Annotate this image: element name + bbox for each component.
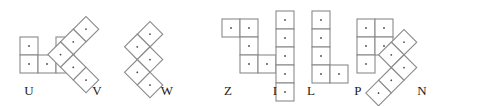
cell-center-dot xyxy=(284,73,286,75)
cell-center-dot xyxy=(284,55,286,57)
cell-center-dot xyxy=(365,27,367,29)
cell-center-dot xyxy=(320,37,322,39)
pentomino-label-l: L xyxy=(296,84,326,98)
pentomino-label-i: I xyxy=(260,84,290,98)
cell-center-dot xyxy=(248,27,250,29)
cell-center-dot xyxy=(284,19,286,21)
pentomino-cells xyxy=(311,10,349,84)
cell-center-dot xyxy=(248,63,250,65)
cell-center-dot xyxy=(248,45,250,47)
pentomino-z-pentomino xyxy=(221,18,275,72)
pentomino-cells xyxy=(221,18,277,74)
pentomino-label-w: W xyxy=(152,84,182,98)
cell-center-dot xyxy=(28,45,30,47)
cell-center-dot xyxy=(365,45,367,47)
pentomino-l-pentomino xyxy=(311,10,347,82)
pentomino-label-n: N xyxy=(407,84,437,98)
pentomino-label-v: V xyxy=(82,84,112,98)
pentomino-figure: UVWZILPN xyxy=(0,0,478,106)
cell-center-dot xyxy=(28,63,30,65)
pentomino-label-z: Z xyxy=(213,84,243,98)
cell-center-dot xyxy=(284,37,286,39)
cell-center-dot xyxy=(230,27,232,29)
cell-center-dot xyxy=(46,63,48,65)
cell-center-dot xyxy=(338,73,340,75)
cell-center-dot xyxy=(320,19,322,21)
cell-center-dot xyxy=(383,27,385,29)
cell-center-dot xyxy=(266,63,268,65)
pentomino-v-pentomino xyxy=(48,15,124,91)
pentomino-label-u: U xyxy=(14,84,44,98)
cell-center-dot xyxy=(320,73,322,75)
cell-center-dot xyxy=(320,55,322,57)
